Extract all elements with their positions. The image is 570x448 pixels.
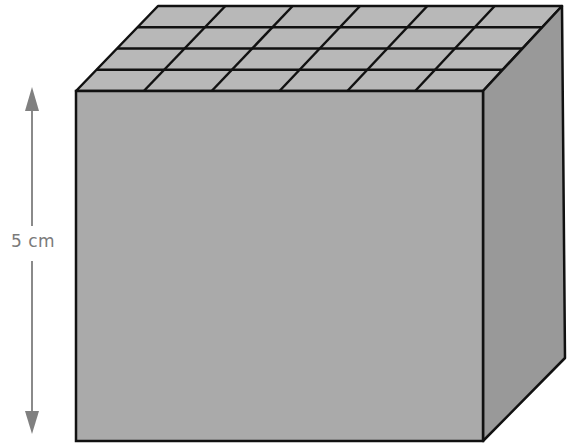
arrow-up-icon	[25, 87, 39, 111]
height-dimension-arrow	[25, 87, 39, 434]
diagram-canvas: 5 cm	[0, 0, 570, 448]
dimension-label: 5 cm	[6, 231, 60, 251]
arrow-down-icon	[25, 411, 39, 434]
front-face	[76, 91, 483, 441]
